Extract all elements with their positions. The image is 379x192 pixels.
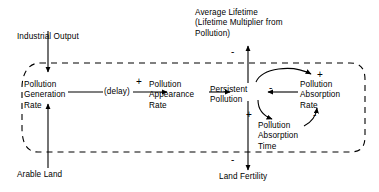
pollution-causal-loop-diagram: Industrial Output Arable Land Pollution … [0, 0, 379, 192]
node-land-fertility: Land Fertility [219, 172, 267, 182]
node-arable-land: Arable Land [17, 170, 62, 180]
node-pollution-appearance-rate: Pollution Appearance Rate [149, 80, 194, 111]
node-industrial-output: Industrial Output [17, 32, 79, 42]
node-persistent-pollution: Persistent Pollution [210, 85, 247, 106]
node-pollution-absorption-time: Pollution Absorption Time [258, 121, 298, 152]
node-pollution-generation-rate: Pollution Generation Rate [24, 80, 66, 111]
sign-lifetime-minus: - [231, 47, 234, 57]
sign-absorption-to-pollution-minus: - [269, 83, 272, 93]
link-persistent-pollution-to-absorption-time [258, 100, 272, 119]
node-delay: (delay) [104, 87, 130, 97]
sign-appearance-plus: + [136, 77, 142, 87]
sign-time-to-rate-minus: - [313, 110, 316, 120]
node-pollution-absorption-rate: Pollution Absorption Rate [300, 80, 340, 111]
sign-absorption-rate-plus: + [317, 70, 323, 80]
sign-fertility-minus: - [231, 155, 234, 165]
sign-absorption-time-plus: + [246, 110, 252, 120]
node-average-lifetime: Average Lifetime (Lifetime Multiplier fr… [195, 8, 283, 39]
